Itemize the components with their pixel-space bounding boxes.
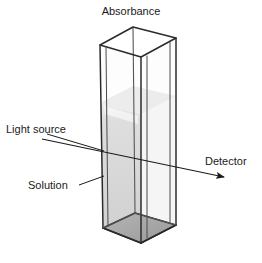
- solution-leader-line: [79, 176, 104, 185]
- title-absorbance: Absorbance: [102, 5, 161, 17]
- label-light-source: Light source: [6, 123, 66, 135]
- cuvette-body: [100, 27, 176, 243]
- label-solution: Solution: [28, 179, 68, 191]
- cuvette-absorbance-diagram: Absorbance Light source Solution Detecto…: [0, 0, 262, 263]
- label-detector: Detector: [205, 155, 247, 167]
- light-source-leader-line: [47, 134, 104, 151]
- figure-root: Absorbance Light source Solution Detecto…: [0, 0, 262, 263]
